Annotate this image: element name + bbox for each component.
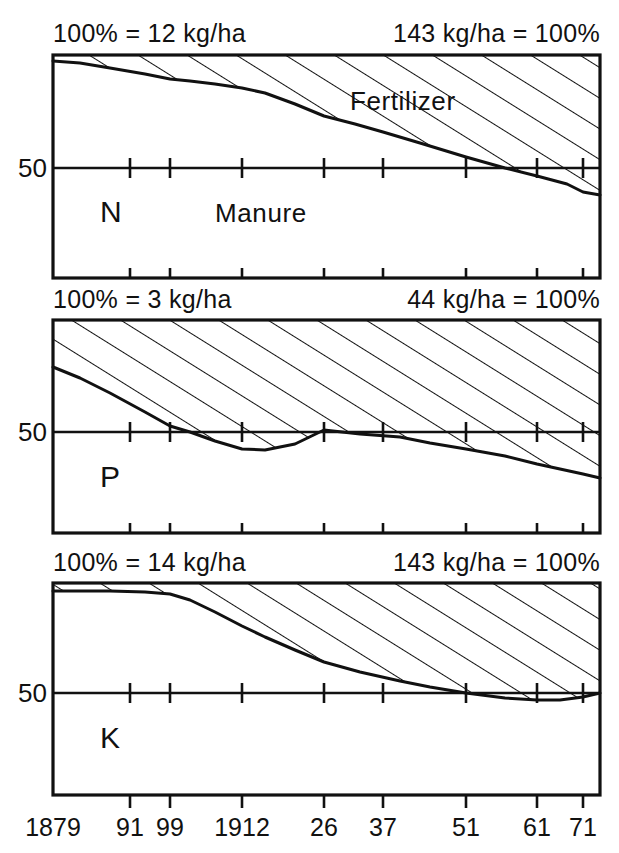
series-label-manure: Manure [215, 198, 307, 228]
panel-P-nutrient-label: P [100, 460, 120, 493]
x-tick-label-61: 61 [523, 813, 551, 841]
panel-P-header-left: 100% = 3 kg/ha [53, 285, 232, 313]
panel-K-y-label-50: 50 [18, 678, 47, 708]
panel-P: 100% = 3 kg/ha 44 kg/ha = 100% [18, 285, 600, 533]
panel-K-header-left: 100% = 14 kg/ha [53, 548, 246, 576]
x-axis-ticks [130, 795, 583, 808]
x-tick-label-1912: 1912 [214, 813, 270, 841]
panel-P-header-right: 44 kg/ha = 100% [407, 285, 600, 313]
panel-N-header-right: 143 kg/ha = 100% [393, 19, 600, 47]
panel-K-header-right: 143 kg/ha = 100% [393, 548, 600, 576]
panel-N-fertilizer-area [53, 55, 600, 195]
panel-K-fertilizer-area [53, 583, 600, 700]
x-tick-label-71: 71 [569, 813, 597, 841]
panel-N-nutrient-label: N [100, 195, 122, 228]
panel-K-nutrient-label: K [100, 721, 120, 754]
x-tick-label-26: 26 [310, 813, 338, 841]
panel-K: 100% = 14 kg/ha 143 kg/ha = 100% 50 K [18, 548, 600, 795]
series-label-fertilizer: Fertilizer [350, 86, 456, 116]
x-tick-label-37: 37 [369, 813, 397, 841]
panel-P-y-label-50: 50 [18, 417, 47, 447]
x-tick-label-51: 51 [452, 813, 480, 841]
x-tick-label-91: 91 [116, 813, 144, 841]
x-axis: 1879 91 99 1912 26 37 51 61 71 [25, 795, 597, 841]
panel-N-header-left: 100% = 12 kg/ha [53, 19, 246, 47]
panel-P-fertilizer-area [53, 320, 600, 478]
x-tick-label-1879: 1879 [25, 813, 81, 841]
x-axis-tick-labels: 1879 91 99 1912 26 37 51 61 71 [25, 813, 597, 841]
panel-N: 100% = 12 kg/ha 143 kg/ha = 100% [18, 19, 600, 278]
x-tick-label-99: 99 [156, 813, 184, 841]
chart-svg: 100% = 12 kg/ha 143 kg/ha = 100% [0, 0, 619, 853]
fertilizer-manure-figure: 100% = 12 kg/ha 143 kg/ha = 100% [0, 0, 619, 853]
panel-N-y-label-50: 50 [18, 153, 47, 183]
